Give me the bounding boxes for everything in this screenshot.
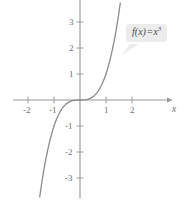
x-tick-label-neg1: -1 <box>49 106 57 115</box>
function-label-callout: f(x)=x3 <box>126 24 167 42</box>
y-tick-label-pos3: 3 <box>69 18 74 27</box>
callout-equals: = <box>146 26 154 37</box>
x-tick-label-neg2: -2 <box>23 106 31 115</box>
y-tick-label-neg3: -3 <box>65 174 73 183</box>
x-axis-arrow-icon <box>167 97 173 102</box>
y-tick-label-neg1: -1 <box>65 122 73 131</box>
callout-exponent: 3 <box>158 25 161 32</box>
y-tick-label-pos1: 1 <box>69 70 74 79</box>
y-tick-label-pos2: 2 <box>69 44 74 53</box>
y-tick-label-neg2: -2 <box>65 148 73 157</box>
x-tick-label-pos1: 1 <box>104 106 109 115</box>
x-axis-label: x <box>172 105 176 115</box>
callout-tail <box>122 44 139 55</box>
function-graph-figure: -2 -1 1 2 3 2 1 -1 -2 -3 x f(x)=x3 <box>0 0 184 205</box>
x-tick-label-pos2: 2 <box>130 106 135 115</box>
